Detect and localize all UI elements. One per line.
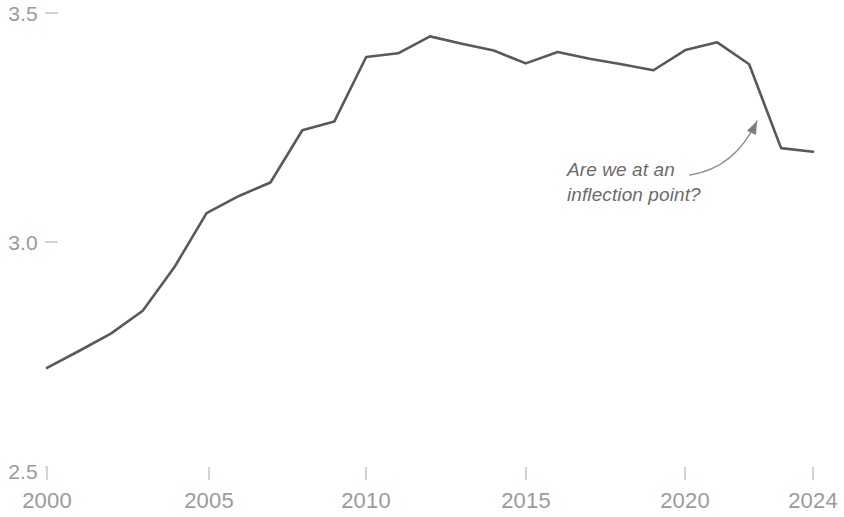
x-axis-ticks <box>209 467 813 480</box>
x-tick-label-2000: 2000 <box>0 488 107 514</box>
chart-canvas <box>0 0 844 517</box>
y-tick-label-3-5: 3.5 <box>0 2 38 26</box>
axis-origin-corner <box>45 467 47 480</box>
y-tick-label-2-5: 2.5 <box>0 460 38 484</box>
x-tick-label-2015: 2015 <box>466 488 586 514</box>
line-chart: 3.53.02.5 200020052010201520202024 Are w… <box>0 0 844 517</box>
x-tick-label-2010: 2010 <box>306 488 426 514</box>
x-tick-label-2005: 2005 <box>149 488 269 514</box>
y-axis-ticks <box>45 13 58 242</box>
x-tick-label-2024: 2024 <box>753 488 844 514</box>
inflection-annotation-text: Are we at an inflection point? <box>567 157 701 207</box>
x-tick-label-2020: 2020 <box>625 488 745 514</box>
y-tick-label-3-0: 3.0 <box>0 231 38 255</box>
annotation-arrow-head <box>747 121 757 135</box>
